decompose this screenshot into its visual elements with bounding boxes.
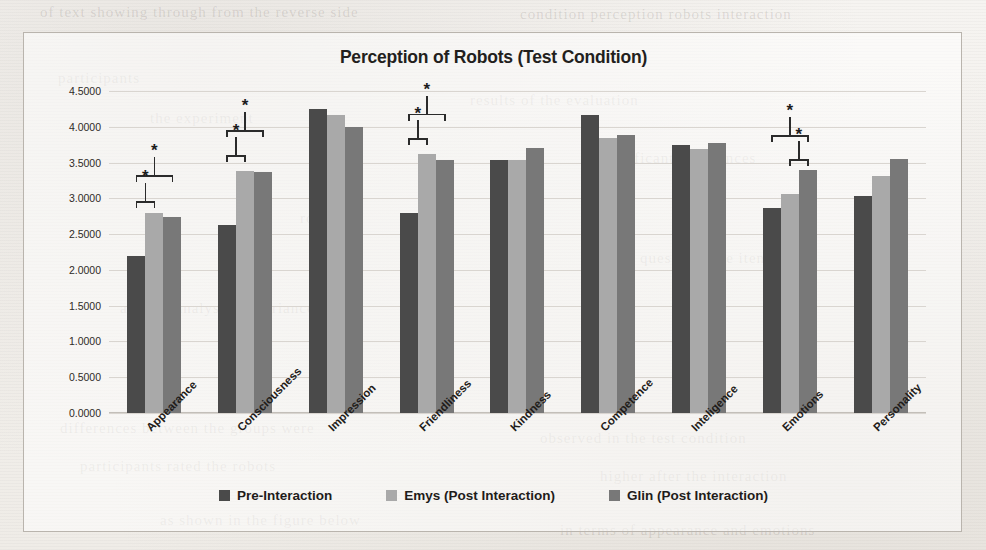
y-axis-tick-label: 2.0000 bbox=[69, 264, 101, 276]
legend-label: Emys (Post Interaction) bbox=[404, 488, 555, 503]
plot-area: 4.50004.00003.50003.00002.50002.00001.50… bbox=[109, 91, 926, 413]
significance-asterisk: * bbox=[796, 130, 803, 140]
bracket-bar bbox=[790, 159, 808, 161]
legend-item[interactable]: Glin (Post Interaction) bbox=[609, 488, 768, 503]
bracket-tick bbox=[789, 159, 791, 166]
bleed-through-text: condition perception robots interaction bbox=[520, 6, 792, 23]
y-axis-tick-label: 0.0000 bbox=[69, 407, 101, 419]
chart-frame: Perception of Robots (Test Condition) 4.… bbox=[23, 32, 962, 532]
legend-swatch-icon bbox=[219, 490, 230, 501]
y-axis-tick-label: 1.5000 bbox=[69, 300, 101, 312]
y-axis-tick-label: 3.5000 bbox=[69, 157, 101, 169]
legend-swatch-icon bbox=[386, 490, 397, 501]
y-axis-tick-label: 4.0000 bbox=[69, 121, 101, 133]
bleed-through-text: of text showing through from the reverse… bbox=[40, 4, 359, 21]
legend-item[interactable]: Emys (Post Interaction) bbox=[386, 488, 555, 503]
legend-label: Glin (Post Interaction) bbox=[627, 488, 768, 503]
chart-legend: Pre-InteractionEmys (Post Interaction)Gl… bbox=[24, 488, 963, 503]
legend-swatch-icon bbox=[609, 490, 620, 501]
y-axis-tick-label: 0.5000 bbox=[69, 371, 101, 383]
y-axis-tick-label: 3.0000 bbox=[69, 192, 101, 204]
y-axis-tick-label: 2.5000 bbox=[69, 228, 101, 240]
chart-title: Perception of Robots (Test Condition) bbox=[24, 47, 963, 68]
legend-item[interactable]: Pre-Interaction bbox=[219, 488, 332, 503]
y-axis-tick-label: 1.0000 bbox=[69, 335, 101, 347]
legend-label: Pre-Interaction bbox=[237, 488, 332, 503]
bracket-tick bbox=[807, 159, 809, 166]
significance-bracket: * bbox=[109, 91, 926, 413]
y-axis-tick-label: 4.5000 bbox=[69, 85, 101, 97]
